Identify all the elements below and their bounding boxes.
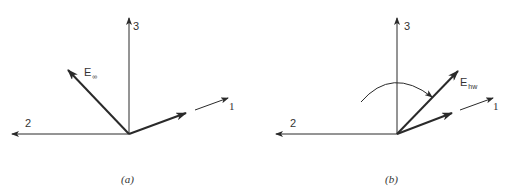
e-hw-label: Ehw (460, 77, 477, 90)
panel-a (12, 18, 228, 134)
caption-b: (b) (385, 173, 398, 185)
axis-3-label-a: 3 (133, 21, 139, 32)
axis-1-extension-arrow (460, 98, 493, 110)
axis-2-label-b: 2 (290, 118, 296, 129)
axis-1-extension-arrow (195, 98, 228, 110)
axis-1-thick-arrow (397, 113, 452, 134)
diagram-canvas (0, 0, 506, 196)
e-infinity-vector (68, 70, 129, 134)
e-hw-base: E (460, 76, 467, 88)
e-hw-vector (397, 71, 458, 134)
e-infinity-subscript: ∞ (92, 73, 97, 80)
e-infinity-label: E∞ (84, 67, 97, 80)
axis-1-label-b: 1 (493, 101, 499, 112)
e-hw-subscript: hw (468, 83, 477, 90)
axis-1-thick-arrow (129, 113, 186, 134)
caption-a: (a) (121, 173, 134, 185)
e-infinity-base: E (84, 66, 91, 78)
axis-1-label-a: 1 (229, 101, 235, 112)
axis-3-label-b: 3 (404, 21, 410, 32)
axis-2-label-a: 2 (25, 118, 31, 129)
